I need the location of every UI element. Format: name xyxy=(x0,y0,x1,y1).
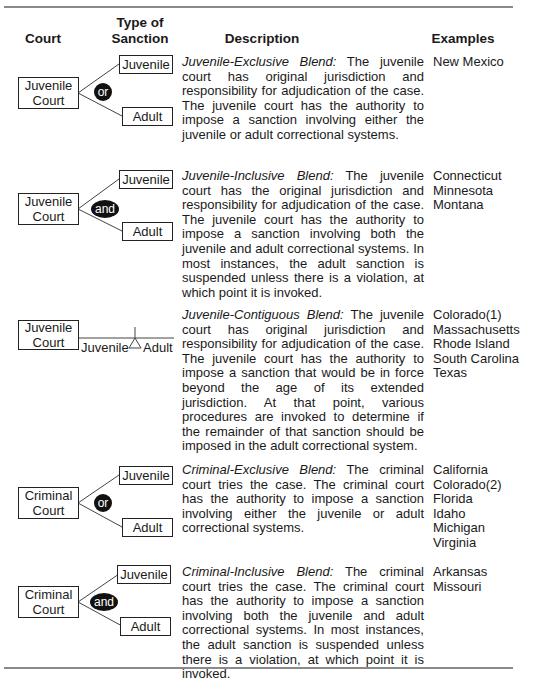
connector-or-badge: or xyxy=(94,83,112,101)
court-label-line1: Criminal xyxy=(25,587,73,602)
court-label-line2: Court xyxy=(33,209,65,224)
description-text: Juvenile-Contiguous Blend: The juvenile … xyxy=(182,308,424,454)
sanction-juvenile-box: Juvenile xyxy=(119,170,173,189)
example-state: Rhode Island xyxy=(433,337,520,352)
court-label-line2: Court xyxy=(33,93,65,108)
sanction-adult-box: Adult xyxy=(120,617,171,636)
examples-list: Arkansas Missouri xyxy=(433,565,487,594)
blend-title: Criminal-Inclusive Blend: xyxy=(182,564,333,579)
connector-and-badge: and xyxy=(91,200,119,218)
examples-list: New Mexico xyxy=(433,55,504,70)
description-text: Juvenile-Inclusive Blend: The juvenile c… xyxy=(182,169,424,300)
sanction-juvenile-box: Juvenile xyxy=(117,565,171,584)
blend-body: The juvenile court has original jurisdic… xyxy=(182,307,424,453)
description-text: Criminal-Inclusive Blend: The criminal c… xyxy=(182,565,424,678)
example-state: South Carolina xyxy=(433,352,520,367)
example-state: Arkansas xyxy=(433,565,487,580)
sanction-adult-box: Adult xyxy=(122,518,173,537)
description-text: Criminal-Exclusive Blend: The criminal c… xyxy=(182,463,424,536)
example-state: Florida xyxy=(433,492,502,507)
court-box: Juvenile Court xyxy=(18,193,79,225)
connector-or-badge: or xyxy=(94,494,112,512)
example-state: Missouri xyxy=(433,580,487,595)
blend-title: Juvenile-Inclusive Blend: xyxy=(182,168,334,183)
example-state: Massachusetts xyxy=(433,323,520,338)
court-label-line1: Juvenile xyxy=(25,194,73,209)
examples-list: Connecticut Minnesota Montana xyxy=(433,169,502,213)
example-state: Idaho xyxy=(433,507,502,522)
court-label-line2: Court xyxy=(33,602,65,617)
court-label-line2: Court xyxy=(33,335,65,350)
court-box: Juvenile Court xyxy=(18,320,79,350)
example-state: Colorado(1) xyxy=(433,308,520,323)
connector-and-badge: and xyxy=(90,593,118,611)
blend-title: Juvenile-Contiguous Blend: xyxy=(182,307,344,322)
sanction-juvenile-label: Juvenile xyxy=(81,340,129,355)
blend-body: The juvenile court has the original juri… xyxy=(182,168,424,300)
court-label-line1: Juvenile xyxy=(25,78,73,93)
example-state: Colorado(2) xyxy=(433,478,502,493)
sanction-adult-box: Adult xyxy=(122,222,173,241)
example-state: Texas xyxy=(433,366,520,381)
bottom-rule xyxy=(4,667,513,669)
court-box: Criminal Court xyxy=(18,586,79,618)
example-state: Montana xyxy=(433,198,502,213)
court-label-line1: Criminal xyxy=(25,488,73,503)
example-state: California xyxy=(433,463,502,478)
sanction-adult-label: Adult xyxy=(143,340,173,355)
court-label-line2: Court xyxy=(33,503,65,518)
sanction-juvenile-box: Juvenile xyxy=(119,55,173,74)
example-state: Michigan xyxy=(433,521,502,536)
blend-body: The criminal court tries the case. The c… xyxy=(182,564,424,678)
examples-list: California Colorado(2) Florida Idaho Mic… xyxy=(433,463,502,551)
example-state: New Mexico xyxy=(433,55,504,70)
court-label-line1: Juvenile xyxy=(25,320,73,335)
blend-title: Criminal-Exclusive Blend: xyxy=(182,462,336,477)
description-text: Juvenile-Exclusive Blend: The juvenile c… xyxy=(182,55,424,143)
court-box: Criminal Court xyxy=(18,487,79,519)
court-box: Juvenile Court xyxy=(18,77,79,109)
example-state: Connecticut xyxy=(433,169,502,184)
sanction-juvenile-box: Juvenile xyxy=(119,466,173,485)
examples-list: Colorado(1) Massachusetts Rhode Island S… xyxy=(433,308,520,381)
sanction-adult-box: Adult xyxy=(122,107,173,126)
blend-title: Juvenile-Exclusive Blend: xyxy=(182,54,336,69)
example-state: Virginia xyxy=(433,536,502,551)
example-state: Minnesota xyxy=(433,184,502,199)
